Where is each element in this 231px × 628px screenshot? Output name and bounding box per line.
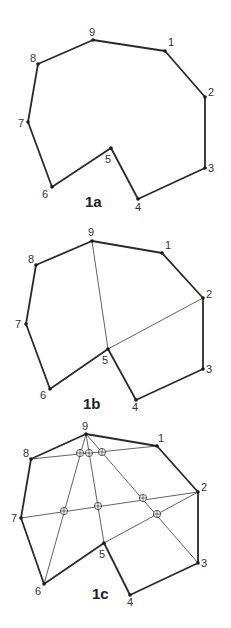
vertex-dot bbox=[42, 582, 46, 586]
vertex-label: 9 bbox=[82, 420, 88, 432]
intersection-marker-icon bbox=[98, 448, 105, 455]
vertex-dot bbox=[106, 347, 110, 351]
vertex-dot bbox=[90, 239, 94, 243]
vertex-label: 5 bbox=[105, 153, 111, 165]
diagonal-7-2 bbox=[21, 492, 198, 518]
intersection-marker-icon bbox=[153, 510, 160, 517]
vertex-dot bbox=[26, 120, 30, 124]
vertex-dot bbox=[48, 387, 52, 391]
vertex-label: 7 bbox=[15, 318, 21, 330]
vertex-dot bbox=[91, 38, 95, 42]
panel-1c: 1234567891c bbox=[11, 420, 207, 608]
intersection-marker-icon bbox=[60, 507, 67, 514]
vertex-label: 4 bbox=[132, 401, 138, 413]
panel-1b: 1234567891b bbox=[15, 226, 212, 413]
panel-caption: 1a bbox=[85, 193, 102, 210]
vertex-dot bbox=[50, 185, 54, 189]
intersection-marker-icon bbox=[94, 502, 101, 509]
vertex-label: 6 bbox=[42, 188, 48, 200]
vertex-label: 9 bbox=[88, 226, 94, 238]
vertex-label: 7 bbox=[11, 512, 17, 524]
vertex-dot bbox=[109, 146, 113, 150]
vertex-label: 1 bbox=[158, 432, 164, 444]
vertex-dot bbox=[196, 490, 200, 494]
panel-caption: 1c bbox=[92, 585, 109, 602]
vertex-dot bbox=[102, 541, 106, 545]
vertex-dot bbox=[160, 251, 164, 255]
vertex-dot bbox=[201, 367, 205, 371]
polygon-triangulation-figure: 1234567891a 1234567891b 1234567891c bbox=[0, 0, 231, 628]
vertex-label: 2 bbox=[206, 288, 212, 300]
vertex-dot bbox=[84, 432, 88, 436]
vertex-label: 3 bbox=[208, 162, 214, 174]
intersection-marker-icon bbox=[85, 449, 92, 456]
intersection-marker-icon bbox=[76, 449, 83, 456]
vertex-label: 2 bbox=[201, 481, 207, 493]
vertex-label: 8 bbox=[30, 52, 36, 64]
vertex-label: 5 bbox=[99, 548, 105, 560]
vertex-label: 7 bbox=[18, 117, 24, 129]
diagonal-8-1 bbox=[31, 446, 157, 459]
diagonal-9-5 bbox=[92, 241, 108, 349]
vertex-label: 9 bbox=[89, 26, 95, 38]
vertex-label: 8 bbox=[28, 253, 34, 265]
polygon-outline bbox=[28, 40, 205, 199]
panel-1a: 1234567891a bbox=[18, 26, 214, 213]
vertex-label: 4 bbox=[127, 596, 133, 608]
vertex-label: 1 bbox=[165, 239, 171, 251]
vertex-label: 2 bbox=[208, 86, 214, 98]
vertex-dot bbox=[201, 296, 205, 300]
vertex-label: 1 bbox=[168, 36, 174, 48]
vertex-dot bbox=[203, 166, 207, 170]
vertex-label: 3 bbox=[206, 363, 212, 375]
vertex-dot bbox=[163, 49, 167, 53]
vertex-label: 4 bbox=[135, 201, 141, 213]
vertex-label: 6 bbox=[40, 389, 46, 401]
intersection-marker-icon bbox=[139, 494, 146, 501]
vertex-label: 8 bbox=[23, 447, 29, 459]
vertex-dot bbox=[203, 95, 207, 99]
vertex-label: 3 bbox=[201, 557, 207, 569]
vertex-dot bbox=[155, 444, 159, 448]
vertex-dot bbox=[29, 457, 33, 461]
vertex-label: 5 bbox=[102, 354, 108, 366]
vertex-dot bbox=[24, 322, 28, 326]
polygon-outline bbox=[26, 241, 203, 400]
vertex-dot bbox=[196, 561, 200, 565]
vertex-dot bbox=[34, 263, 38, 267]
vertex-dot bbox=[19, 516, 23, 520]
vertex-dot bbox=[36, 62, 40, 66]
panel-caption: 1b bbox=[83, 395, 101, 412]
diagonal-5-2 bbox=[104, 492, 198, 543]
diagonal-5-2 bbox=[108, 298, 203, 349]
vertex-label: 6 bbox=[35, 585, 41, 597]
